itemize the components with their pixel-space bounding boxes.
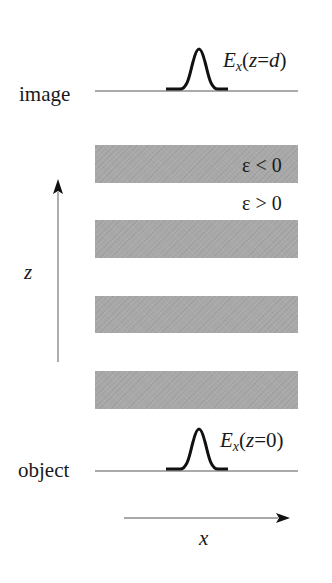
x-axis-label: x bbox=[199, 528, 208, 549]
object-field-label: Ex(z=0) bbox=[220, 430, 284, 454]
epsilon-negative-label: ε < 0 bbox=[242, 155, 282, 175]
z-axis-arrowhead-icon bbox=[53, 179, 63, 194]
x-axis-arrowhead-icon bbox=[276, 513, 290, 523]
metal-layer-3 bbox=[95, 296, 298, 333]
z-axis-label: z bbox=[24, 262, 32, 283]
image-field-label: Ex(z=d) bbox=[223, 50, 287, 74]
epsilon-positive-label: ε > 0 bbox=[242, 193, 282, 213]
metal-layer-2 bbox=[95, 220, 298, 258]
superlens-diagram: image object Ex(z=d) Ex(z=0) ε < 0 ε > 0… bbox=[0, 0, 332, 583]
object-plane-label: object bbox=[18, 460, 69, 481]
image-plane-label: image bbox=[19, 84, 70, 105]
object-gaussian-pulse-icon bbox=[166, 429, 228, 469]
metal-layer-4 bbox=[95, 371, 298, 409]
image-gaussian-pulse-icon bbox=[166, 49, 228, 89]
